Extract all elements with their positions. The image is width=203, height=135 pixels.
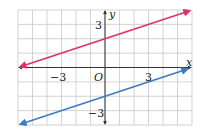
x-tick-neg3: −3	[50, 71, 66, 84]
y-tick-neg3: −3	[88, 107, 104, 120]
y-tick-pos3: 3	[95, 19, 102, 32]
coordinate-plane: x y O −3 3 3 −3	[0, 0, 203, 135]
origin-label: O	[94, 71, 103, 84]
axes	[19, 11, 191, 124]
y-axis-label: y	[108, 8, 116, 21]
x-axis-label: x	[186, 56, 193, 69]
x-tick-pos3: 3	[145, 71, 152, 84]
